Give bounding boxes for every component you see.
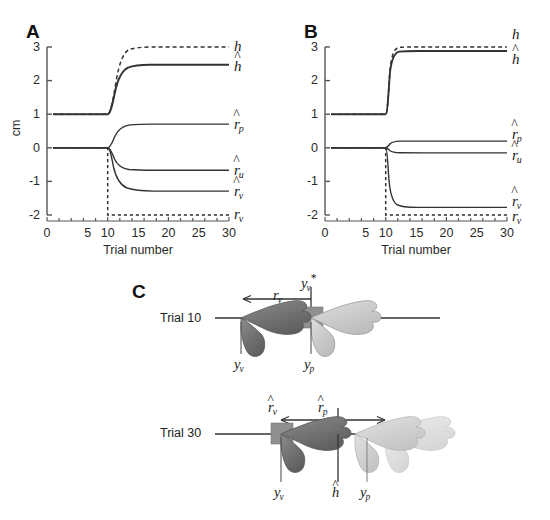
panel-b-xtick-15: 15 bbox=[406, 227, 426, 240]
superscript-star-icon: * bbox=[311, 272, 317, 285]
panel-c-row-label-trial-10: Trial 10 bbox=[160, 312, 201, 325]
panel-b-xtick-25: 25 bbox=[467, 227, 487, 240]
panel-b-label-rv: rv bbox=[512, 209, 522, 224]
panel-a-x-axis bbox=[47, 217, 229, 221]
panel-a-label-rv-sub: v bbox=[239, 213, 243, 224]
hat-accent-icon: ^ bbox=[511, 118, 517, 132]
panel-a-xtick-25: 25 bbox=[189, 227, 209, 240]
panel-c-trial-10-hand-dark bbox=[241, 301, 311, 357]
panel-b-label-ru-sub: u bbox=[517, 154, 522, 165]
panel-c-letter: C bbox=[132, 282, 146, 301]
panel-a-xtick-15: 15 bbox=[128, 227, 148, 240]
panel-b-curve-h-hat bbox=[331, 51, 507, 114]
panel-a-curve-h bbox=[53, 47, 229, 114]
hat-accent-icon: ^ bbox=[511, 185, 517, 199]
panel-a-plot-area bbox=[0, 0, 270, 250]
panel-a-label-rv-hat: ^rv bbox=[234, 184, 244, 199]
panel-a: A 3 2 1 0 -1 -2 cm bbox=[0, 0, 270, 260]
panel-c-trial-10-label-yv-star: yv* bbox=[301, 276, 317, 291]
panel-a-y-axis bbox=[47, 47, 52, 215]
panel-b-label-rv-sub: v bbox=[517, 215, 521, 226]
panel-b-x-axis-title: Trial number bbox=[356, 243, 476, 257]
panel-a-label-rv: rv bbox=[234, 207, 244, 222]
hat-accent-icon: ^ bbox=[267, 392, 273, 405]
panel-a-curve-rv-hat bbox=[53, 148, 229, 191]
panel-b-label-h-hat-glyph: ^h bbox=[512, 52, 520, 67]
panel-b-svg bbox=[278, 0, 550, 250]
panel-b-xtick-30: 30 bbox=[497, 227, 517, 240]
hat-accent-icon: ^ bbox=[317, 392, 323, 405]
panel-b-curve-rv-hat bbox=[331, 148, 507, 208]
panel-b-plot-area bbox=[278, 0, 550, 250]
panel-c-trial-10-label-yp: yp bbox=[304, 357, 315, 372]
panel-b-xtick-20: 20 bbox=[436, 227, 456, 240]
panel-a-label-h-hat-glyph: ^h bbox=[234, 59, 242, 74]
panel-b-label-h: h bbox=[512, 27, 520, 42]
panel-b: B 3 2 1 0 -1 -2 bbox=[278, 0, 550, 260]
panel-a-x-axis-title: Trial number bbox=[78, 243, 198, 257]
hat-accent-icon: ^ bbox=[511, 139, 517, 153]
hat-accent-icon: ^ bbox=[332, 477, 338, 490]
panel-b-xtick-0: 0 bbox=[315, 227, 335, 240]
panel-a-curve-rp-hat bbox=[53, 124, 229, 148]
panel-a-xtick-5: 5 bbox=[78, 227, 98, 240]
panel-a-svg bbox=[0, 0, 270, 250]
panel-a-xtick-10: 10 bbox=[98, 227, 118, 240]
panel-c-trial-30-label-hhat: ^h bbox=[332, 485, 339, 500]
hat-accent-icon: ^ bbox=[233, 154, 239, 168]
panel-b-curve-h bbox=[331, 47, 507, 114]
panel-b-curve-rp-hat bbox=[331, 141, 507, 148]
panel-b-label-h-base: h bbox=[512, 26, 520, 42]
panel-a-label-rp-hat: ^rp bbox=[234, 117, 245, 132]
panel-a-curve-h-hat bbox=[53, 65, 229, 114]
panel-b-curve-ru-hat bbox=[331, 148, 507, 153]
panel-c-row-label-trial-30: Trial 30 bbox=[160, 427, 201, 440]
panel-a-curve-ru-hat bbox=[53, 148, 229, 171]
panel-c: C Trial 10 bbox=[0, 262, 550, 520]
panel-b-y-axis bbox=[325, 47, 330, 215]
panel-a-label-rv-hat-sub: v bbox=[239, 190, 243, 201]
panel-b-curve-rv bbox=[331, 148, 507, 215]
panel-b-xtick-10: 10 bbox=[376, 227, 396, 240]
panel-c-trial-30-label-rv-hat: ^rv bbox=[268, 400, 278, 415]
panel-b-xtick-5: 5 bbox=[356, 227, 376, 240]
panel-a-label-rp-sub: p bbox=[239, 123, 244, 134]
hat-accent-icon: ^ bbox=[233, 108, 239, 122]
panel-b-label-h-hat: ^h bbox=[512, 52, 520, 67]
panel-a-xtick-30: 30 bbox=[219, 227, 239, 240]
hat-accent-icon: ^ bbox=[234, 50, 240, 64]
panel-a-label-h-hat: ^h bbox=[234, 59, 242, 74]
panel-b-label-ru-hat: ^ru bbox=[512, 148, 523, 163]
panel-c-trial-10-diagram bbox=[215, 274, 465, 389]
panel-b-x-axis bbox=[325, 217, 507, 221]
panel-c-trial-30-diagram bbox=[215, 390, 480, 520]
panel-c-trial-30-label-rp-hat: ^rp bbox=[318, 400, 328, 415]
panel-a-xtick-0: 0 bbox=[37, 227, 57, 240]
panel-a-xtick-20: 20 bbox=[158, 227, 178, 240]
panel-c-trial-30-label-yp: yp bbox=[360, 485, 371, 500]
hat-accent-icon: ^ bbox=[512, 43, 518, 57]
panel-a-curve-rv bbox=[53, 148, 229, 215]
figure-root: A 3 2 1 0 -1 -2 cm bbox=[0, 0, 550, 520]
panel-b-label-rv-hat: ^rv bbox=[512, 194, 522, 209]
panel-c-trial-10-label-rv: rv bbox=[273, 288, 283, 303]
panel-c-trial-30-hhat-glyph: ^h bbox=[332, 485, 339, 500]
hat-accent-icon: ^ bbox=[233, 175, 239, 189]
panel-c-trial-30-label-yv: yv bbox=[274, 485, 285, 500]
panel-c-trial-10-label-yv: yv bbox=[234, 357, 245, 372]
